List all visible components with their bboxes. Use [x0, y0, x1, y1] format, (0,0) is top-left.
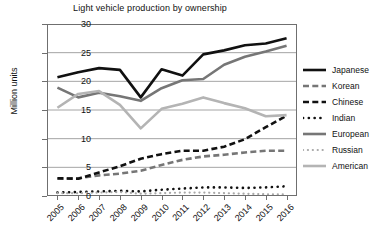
legend-swatch-japanese-icon — [303, 65, 326, 75]
legend-item-chinese[interactable]: Chinese — [303, 94, 387, 110]
legend-swatch-european-icon — [303, 129, 326, 139]
legend-item-russian[interactable]: Russian — [303, 142, 387, 158]
y-tick-mark — [42, 53, 47, 54]
x-tick-mark — [245, 196, 246, 200]
chart-title: Light vehicle production by ownership — [0, 3, 300, 13]
legend-label: Russian — [332, 145, 363, 155]
legend-label: Chinese — [332, 97, 363, 107]
legend-item-european[interactable]: European — [303, 126, 387, 142]
y-tick-mark — [42, 139, 47, 140]
legend-item-korean[interactable]: Korean — [303, 78, 387, 94]
y-tick-mark — [42, 81, 47, 82]
y-tick-mark — [42, 167, 47, 168]
y-tick-label: 5 — [51, 162, 91, 172]
legend-label: Indian — [332, 113, 355, 123]
x-tick-mark — [224, 196, 225, 200]
x-tick-mark — [120, 196, 121, 200]
x-tick-mark — [99, 196, 100, 200]
y-tick-label: 30 — [51, 19, 91, 29]
y-tick-label: 15 — [51, 105, 91, 115]
y-tick-mark — [42, 196, 47, 197]
x-tick-mark — [78, 196, 79, 200]
legend-item-american[interactable]: American — [303, 158, 387, 174]
legend-label: European — [332, 129, 369, 139]
x-tick-mark — [141, 196, 142, 200]
y-tick-label: 25 — [51, 48, 91, 58]
x-tick-mark — [182, 196, 183, 200]
chart-container: Light vehicle production by ownership Mi… — [0, 0, 388, 243]
legend-swatch-american-icon — [303, 161, 326, 171]
y-tick-label: 10 — [51, 134, 91, 144]
x-tick-mark — [266, 196, 267, 200]
x-tick-mark — [162, 196, 163, 200]
x-tick-mark — [287, 196, 288, 200]
x-tick-mark — [203, 196, 204, 200]
chart-legend: JapaneseKoreanChineseIndianEuropeanRussi… — [303, 62, 387, 174]
legend-swatch-chinese-icon — [303, 97, 326, 107]
legend-label: Japanese — [332, 65, 369, 75]
legend-item-indian[interactable]: Indian — [303, 110, 387, 126]
legend-item-japanese[interactable]: Japanese — [303, 62, 387, 78]
legend-swatch-russian-icon — [303, 145, 326, 155]
y-tick-mark — [42, 110, 47, 111]
x-tick-mark — [57, 196, 58, 200]
y-axis-label: Million units — [9, 51, 19, 131]
legend-label: Korean — [332, 81, 359, 91]
y-tick-mark — [42, 24, 47, 25]
legend-label: American — [332, 161, 368, 171]
legend-swatch-korean-icon — [303, 81, 326, 91]
y-tick-label: 20 — [51, 76, 91, 86]
legend-swatch-indian-icon — [303, 113, 326, 123]
